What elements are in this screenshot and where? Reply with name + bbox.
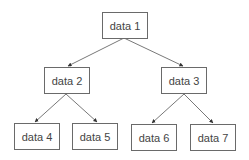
node-data-3: data 3 <box>161 67 207 94</box>
node-data-4: data 4 <box>14 123 60 150</box>
edge-1-3 <box>124 38 183 66</box>
node-data-1: data 1 <box>102 12 148 39</box>
edge-1-2 <box>68 38 124 66</box>
node-data-6: data 6 <box>131 124 177 151</box>
edge-3-6 <box>152 94 184 123</box>
edge-2-4 <box>35 94 66 122</box>
node-data-7: data 7 <box>190 124 236 151</box>
node-data-5: data 5 <box>72 123 118 150</box>
node-data-2: data 2 <box>44 67 90 94</box>
edge-3-7 <box>184 94 213 123</box>
edge-2-5 <box>66 94 97 122</box>
